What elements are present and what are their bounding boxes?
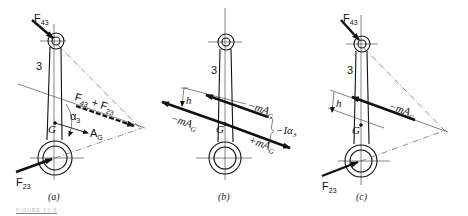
- label-f23: F23: [322, 180, 337, 194]
- panel-c: F43 3 h −mAG G F23 (c): [322, 12, 448, 203]
- label-alpha3: α3: [70, 110, 80, 124]
- label-f23: F23: [16, 176, 31, 190]
- label-neg-mag: −mAG: [386, 99, 416, 122]
- label-f43-plus-f23: F43 + F23: [73, 90, 117, 116]
- label-ag: AG: [90, 127, 103, 141]
- link-number-label: 3: [211, 64, 217, 76]
- figure-caption: FIGURE 13-5: [16, 207, 57, 214]
- f23-line-of-action: [55, 128, 142, 158]
- label-g: G: [216, 123, 224, 135]
- link-number-label: 3: [347, 64, 353, 76]
- connecting-rod-force-diagram: F43 3 F43 + F23 G α3 AG F23 (a) h: [0, 0, 468, 216]
- panel-caption: (a): [48, 191, 60, 203]
- label-g: G: [48, 123, 56, 135]
- panel-a: F43 3 F43 + F23 G α3 AG F23 (a): [16, 12, 145, 203]
- force-f23-arrow: [16, 159, 52, 172]
- label-f43: F43: [343, 12, 358, 26]
- panel-caption: (c): [356, 191, 368, 203]
- link-number-label: 3: [36, 60, 42, 72]
- label-neg-mag-left: −mAG: [168, 111, 198, 134]
- f43-line-of-action: [364, 48, 444, 130]
- label-g: G: [352, 124, 360, 136]
- h-dimension-arrow: [182, 88, 184, 106]
- f23-line-of-action: [361, 130, 446, 161]
- panel-b: h 3 −mAG −mAG +mAG −Iα3 G (b): [162, 8, 297, 203]
- label-i-alpha3: −Iα3: [276, 124, 297, 139]
- label-f43: F43: [34, 12, 49, 26]
- label-neg-mag-top: −mAG: [245, 98, 275, 121]
- label-h: h: [336, 97, 342, 109]
- panel-caption: (b): [218, 191, 230, 203]
- offset-reference-line: [184, 88, 246, 104]
- force-f23-arrow: [322, 162, 358, 176]
- h-dimension-arrow: [332, 92, 334, 112]
- label-pos-mag: +mAG: [246, 133, 276, 156]
- label-h: h: [186, 94, 192, 106]
